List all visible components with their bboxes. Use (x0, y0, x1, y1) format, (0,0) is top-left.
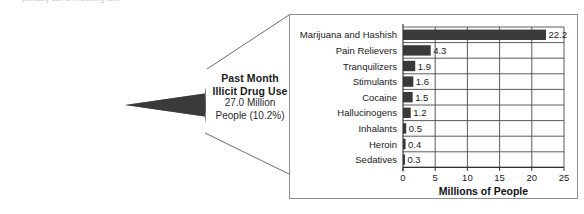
x-tick-label: 15 (490, 172, 510, 183)
x-tick-label: 0 (393, 172, 413, 183)
bar-category-label: Sedatives (355, 154, 397, 165)
pie-major-title-line1: No Past Month (36, 72, 156, 85)
bar-category-label: Cocaine (362, 92, 397, 103)
x-tick-label: 20 (522, 172, 542, 183)
x-tick-label: 25 (554, 172, 574, 183)
x-tick-label: 10 (457, 172, 477, 183)
x-axis-title: Millions of People (403, 185, 564, 197)
bar (403, 108, 411, 118)
bar-value-label: 0.3 (407, 154, 420, 165)
callout-line-upper (207, 15, 289, 69)
illicit-drug-use-figure: partially cut-off heading text No Past M… (0, 0, 584, 214)
pie-minor-title-line2: Illicit Drug Use (196, 85, 304, 98)
bar (403, 92, 413, 102)
pie-label-past-month: Past Month Illicit Drug Use 27.0 Million… (196, 72, 304, 122)
pie-minor-value-line2: People (10.2%) (196, 110, 304, 123)
pie-minor-value-line1: 27.0 Million (196, 97, 304, 110)
bar (403, 61, 415, 71)
bar-value-label: 1.9 (418, 61, 431, 72)
bar (403, 45, 431, 55)
bar-value-label: 0.5 (409, 123, 422, 134)
callout-line-lower (205, 133, 289, 174)
bar-value-label: 1.2 (413, 107, 426, 118)
bar-value-label: 1.5 (415, 92, 428, 103)
pie-major-title-line2: Illicit Drug Use (36, 85, 156, 98)
pie-minor-title-line1: Past Month (196, 72, 304, 85)
bar-category-label: Inhalants (358, 123, 397, 134)
bar (403, 76, 413, 86)
bar-value-label: 22.2 (548, 29, 567, 40)
x-tick-label: 5 (425, 172, 445, 183)
bar-category-label: Tranquilizers (343, 61, 397, 72)
cut-off-heading: partially cut-off heading text (22, 0, 262, 3)
bar (403, 30, 546, 40)
bar-value-label: 4.3 (433, 45, 446, 56)
pie-major-value-line2: People (89.8%) (36, 110, 156, 123)
bar-value-label: 1.6 (416, 76, 429, 87)
pie-major-value-line1: 238.1 Million (36, 97, 156, 110)
bar-category-label: Marijuana and Hashish (300, 29, 397, 40)
bar-category-label: Stimulants (353, 76, 397, 87)
bar-chart-panel: Marijuana and HashishPain RelieversTranq… (289, 14, 578, 199)
bar-category-label: Hallucinogens (337, 107, 397, 118)
bar-value-label: 0.4 (408, 139, 421, 150)
bar-category-label: Heroin (369, 139, 397, 150)
pie-label-no-past-month: No Past Month Illicit Drug Use 238.1 Mil… (36, 72, 156, 122)
bar-category-label: Pain Relievers (336, 45, 397, 56)
